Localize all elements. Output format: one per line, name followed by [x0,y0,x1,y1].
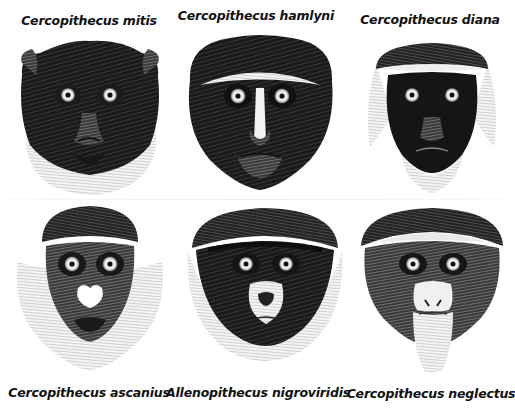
nose [420,117,444,141]
label-cercopithecus-mitis: Cercopithecus mitis [21,13,157,28]
species-plate: Cercopithecus mitis Cercopithecus hamlyn… [0,0,515,411]
head-crown [42,206,138,242]
label-cercopithecus-diana: Cercopithecus diana [360,12,500,27]
figure-cercopithecus-diana [362,35,502,195]
figure-cercopithecus-ascanius [12,202,167,372]
label-cercopithecus-hamlyni: Cercopithecus hamlyni [178,8,334,23]
label-allenopithecus-nigroviridis: Allenopithecus nigroviridis [166,385,350,400]
head-fur [21,41,159,175]
figure-cercopithecus-hamlyni [180,30,340,192]
white-muzzle [413,281,452,312]
head-crown [361,208,503,246]
label-cercopithecus-ascanius: Cercopithecus ascanius [8,385,169,400]
figure-cercopithecus-neglectus [357,202,507,374]
figure-allenopithecus-nigroviridis [180,202,350,372]
nose-stripe [254,88,266,142]
figure-cercopithecus-mitis [10,35,170,200]
label-cercopithecus-neglectus: Cercopithecus neglectus [347,386,515,401]
white-beard [413,312,453,372]
